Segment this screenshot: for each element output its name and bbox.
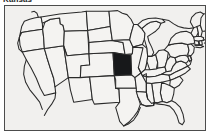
coastline-california-baja bbox=[44, 93, 55, 116]
border-canada-great-lakes bbox=[162, 19, 193, 28]
coastline-pacific-northwest bbox=[32, 11, 39, 17]
locator-map-page: Kansas bbox=[0, 0, 211, 137]
state-oklahoma[interactable] bbox=[114, 75, 136, 88]
page-title: Kansas bbox=[3, 0, 32, 4]
state-maine[interactable] bbox=[200, 13, 205, 31]
state-nebraska[interactable] bbox=[89, 40, 125, 54]
page-title-clip: Kansas bbox=[3, 0, 93, 4]
coastline-long-island bbox=[195, 45, 204, 48]
map-frame bbox=[4, 5, 206, 131]
state-connecticut[interactable] bbox=[194, 40, 199, 45]
united-states-map[interactable] bbox=[5, 6, 205, 130]
state-kansas-highlighted[interactable] bbox=[113, 52, 132, 75]
state-new-jersey[interactable] bbox=[188, 44, 195, 56]
state-wyoming[interactable] bbox=[64, 31, 89, 56]
state-florida[interactable] bbox=[154, 101, 184, 125]
state-arizona[interactable] bbox=[68, 77, 92, 102]
state-rhode-island[interactable] bbox=[199, 40, 202, 45]
state-minnesota[interactable] bbox=[109, 11, 134, 41]
